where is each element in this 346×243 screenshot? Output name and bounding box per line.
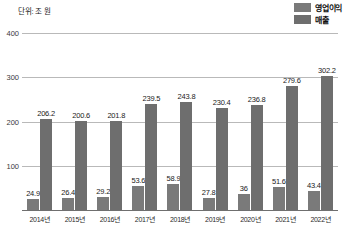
bar-operating-profit: 58.9: [167, 184, 179, 210]
legend-item-revenue: 매출: [294, 15, 328, 24]
bar-value-label: 302.2: [318, 66, 336, 75]
chart-legend: 영업이익 매출: [294, 3, 342, 24]
bar-group: 51.6279.6: [268, 33, 303, 210]
bar-revenue: 239.5: [145, 104, 157, 210]
bar-operating-profit: 29.2: [97, 197, 109, 210]
y-axis-tick-label: 400: [6, 29, 19, 38]
bar-revenue: 201.8: [110, 121, 122, 210]
bar-group: 43.4302.2: [303, 33, 338, 210]
bar-revenue: 230.4: [216, 108, 228, 210]
bar-operating-profit: 51.6: [273, 187, 285, 210]
x-axis-tick-label: 2020년: [233, 214, 268, 224]
bar-revenue: 302.2: [321, 76, 333, 210]
bar-value-label: 53.6: [131, 176, 145, 185]
x-axis-tick-label: 2022년: [303, 214, 338, 224]
bar-value-label: 230.4: [213, 98, 231, 107]
unit-label: 단위: 조 원: [18, 5, 51, 16]
bar-value-label: 243.8: [178, 92, 196, 101]
x-axis-tick-label: 2017년: [127, 214, 162, 224]
bar-revenue: 200.6: [75, 121, 87, 210]
bar-operating-profit: 53.6: [132, 186, 144, 210]
bar-value-label: 36: [240, 184, 248, 193]
bar-revenue: 236.8: [251, 105, 263, 210]
bar-value-label: 236.8: [248, 95, 266, 104]
bar-value-label: 43.4: [307, 181, 321, 190]
x-axis-tick-label: 2019년: [198, 214, 233, 224]
x-axis: 2014년2015년2016년2017년2018년2019년2020년2021년…: [22, 214, 338, 224]
x-axis-tick-label: 2016년: [92, 214, 127, 224]
bar-value-label: 206.2: [37, 109, 55, 118]
bar-revenue: 279.6: [286, 86, 298, 210]
bar-groups: 24.9206.226.4200.629.2201.853.6239.558.9…: [22, 33, 338, 210]
bar-value-label: 27.8: [202, 188, 216, 197]
bar-value-label: 24.9: [26, 189, 40, 198]
bar-group: 58.9243.8: [162, 33, 197, 210]
axis-baseline: [22, 210, 338, 211]
bar-value-label: 58.9: [167, 174, 181, 183]
bar-revenue: 206.2: [40, 119, 52, 210]
legend-swatch-icon: [294, 15, 311, 24]
y-axis-tick-label: 200: [6, 117, 19, 126]
bar-operating-profit: 43.4: [308, 191, 320, 210]
bar-value-label: 26.4: [61, 188, 75, 197]
bar-value-label: 200.6: [72, 111, 90, 120]
legend-item-operating-profit: 영업이익: [294, 3, 342, 12]
bar-group: 29.2201.8: [92, 33, 127, 210]
bar-value-label: 201.8: [107, 111, 125, 120]
legend-label: 매출: [315, 14, 328, 25]
bar-operating-profit: 27.8: [203, 198, 215, 210]
x-axis-tick-label: 2014년: [22, 214, 57, 224]
bar-group: 26.4200.6: [57, 33, 92, 210]
legend-label: 영업이익: [315, 2, 342, 13]
plot-area: 100200300400 24.9206.226.4200.629.2201.8…: [22, 33, 338, 211]
bar-group: 24.9206.2: [22, 33, 57, 210]
x-axis-tick-label: 2021년: [268, 214, 303, 224]
bar-value-label: 51.6: [272, 177, 286, 186]
x-axis-tick-label: 2015년: [57, 214, 92, 224]
bar-group: 53.6239.5: [127, 33, 162, 210]
bar-group: 36236.8: [233, 33, 268, 210]
y-axis-tick-label: 300: [6, 73, 19, 82]
bar-operating-profit: 36: [238, 194, 250, 210]
x-axis-tick-label: 2018년: [162, 214, 197, 224]
legend-swatch-icon: [294, 3, 311, 12]
bar-value-label: 29.2: [96, 187, 110, 196]
bar-value-label: 239.5: [142, 94, 160, 103]
bar-revenue: 243.8: [180, 102, 192, 210]
bar-value-label: 279.6: [283, 76, 301, 85]
bar-operating-profit: 26.4: [62, 198, 74, 210]
bar-chart: 단위: 조 원 영업이익 매출 100200300400 24.9206.226…: [0, 0, 346, 243]
y-axis-tick-label: 100: [6, 161, 19, 170]
bar-group: 27.8230.4: [198, 33, 233, 210]
bar-operating-profit: 24.9: [27, 199, 39, 210]
